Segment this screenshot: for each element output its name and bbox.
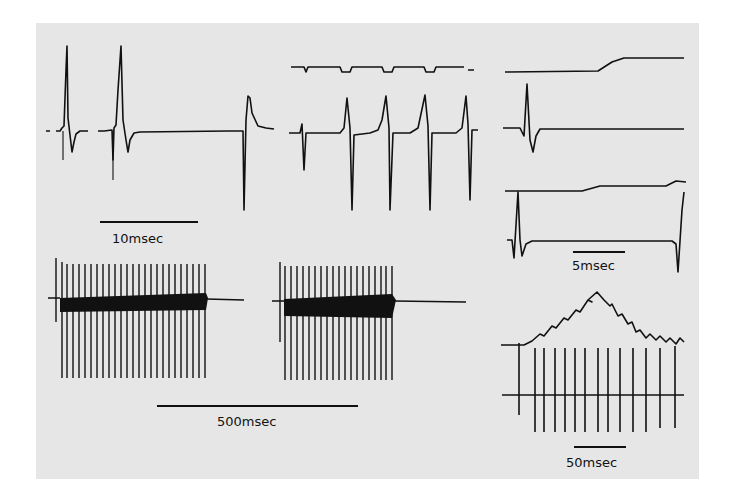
scale-label-50ms: 50msec	[566, 455, 617, 470]
scale-label-10ms: 10msec	[112, 231, 163, 246]
scale-label-500ms: 500msec	[217, 414, 276, 429]
scale-label-5ms: 5msec	[572, 258, 615, 273]
trace-bursts: 500msec	[48, 258, 466, 429]
oscilloscope-figure: 10msec 5msec	[0, 0, 737, 502]
trace-right-lower: 50msec	[501, 292, 684, 470]
trace-right-upper: 5msec	[503, 58, 686, 273]
trace-top-middle	[289, 67, 478, 210]
trace-top-left: 10msec	[46, 46, 274, 246]
